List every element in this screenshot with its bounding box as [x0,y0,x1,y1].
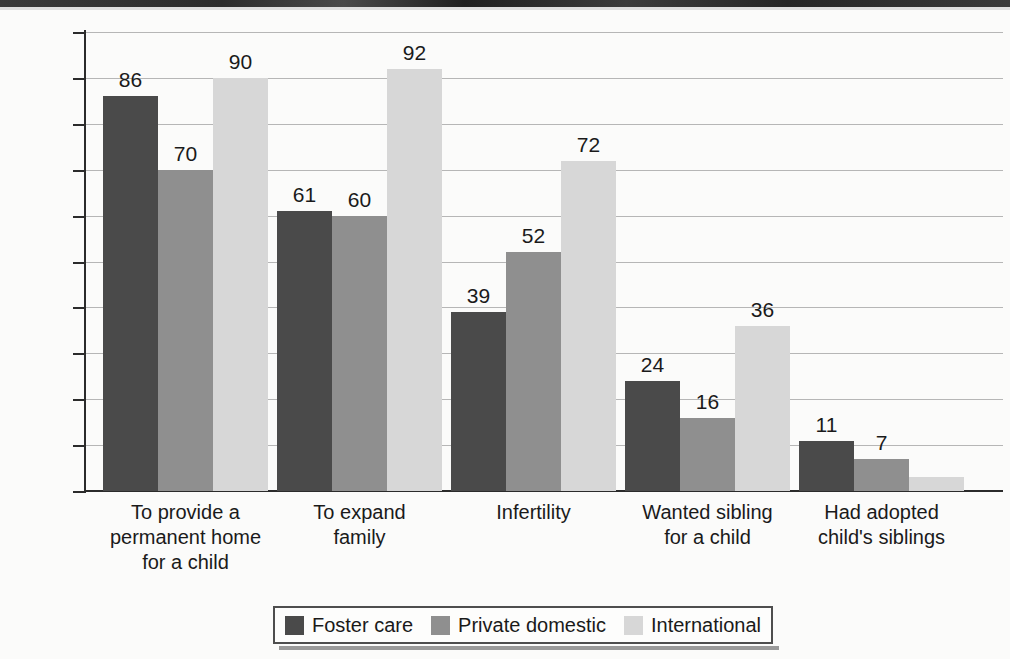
y-axis-tick [73,262,84,264]
bar [506,252,561,491]
y-axis-tick [73,353,84,355]
bar [854,459,909,491]
bar [909,477,964,491]
legend-swatch-icon [285,616,304,635]
gridline [84,32,1003,33]
bar-value-label: 90 [199,50,282,74]
bar [332,216,387,491]
x-axis-category-label: To provide a permanent home for a child [91,500,281,575]
bar-value-label: 72 [547,133,630,157]
y-axis-tick [73,124,84,126]
legend-swatch-icon [431,616,450,635]
y-axis-tick [73,170,84,172]
bar-value-label: 36 [721,298,804,322]
scan-edge-shadow [0,7,1010,10]
bar [735,326,790,491]
x-axis-category-label: Wanted sibling for a child [613,500,803,550]
x-axis-category-label: Had adopted child's siblings [787,500,977,550]
y-axis-tick [73,78,84,80]
legend-item: International [624,614,761,637]
y-axis-tick [73,445,84,447]
x-axis-category-label: Infertility [439,500,629,525]
y-axis-line [84,30,86,493]
bar [561,161,616,491]
bar [213,78,268,491]
scan-edge-band [0,0,1010,7]
legend-label: Foster care [312,614,413,637]
y-axis-tick [73,307,84,309]
chart-legend: Foster carePrivate domesticInternational [273,606,773,644]
y-axis-tick [73,216,84,218]
bar-value-label: 7 [840,431,923,455]
y-axis-tick [73,32,84,34]
legend-label: International [651,614,761,637]
chart-page: 0%10%20%30%40%50%60%70%80%90%100% 867090… [0,0,1010,659]
y-axis-tick [73,399,84,401]
legend-item: Foster care [285,614,413,637]
bar-value-label: 86 [89,68,172,92]
bar [451,312,506,491]
legend-swatch-icon [624,616,643,635]
bar-value-label: 24 [611,353,694,377]
bar-value-label: 92 [373,41,456,65]
bar [387,69,442,491]
bar [158,170,213,491]
legend-label: Private domestic [458,614,606,637]
bar [277,211,332,491]
y-axis-tick [73,491,84,493]
x-axis-category-label: To expand family [265,500,455,550]
bar [680,418,735,491]
legend-item: Private domestic [431,614,606,637]
